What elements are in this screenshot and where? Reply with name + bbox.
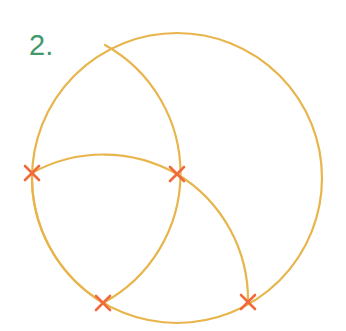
- intersection-mark-center: [170, 167, 184, 181]
- main-circle: [32, 33, 322, 323]
- intersection-mark-bottom-left: [96, 296, 110, 310]
- compass-construction-diagram: [0, 0, 346, 331]
- arc-center-to-bottom-right: [177, 174, 248, 302]
- arc-left-to-bottom-left: [32, 173, 103, 303]
- arc-top-to-bottom-left: [103, 45, 181, 303]
- arc-lens-top: [32, 155, 177, 174]
